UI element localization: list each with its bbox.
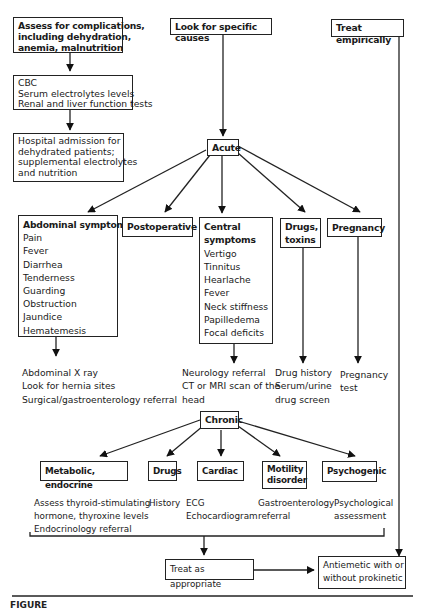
- drugs-toxins-box: Drugs, toxins: [280, 218, 321, 248]
- abdominal-item: Pain: [23, 231, 113, 244]
- drugs-chronic-box: Drugs: [148, 461, 177, 481]
- action-line: Surgical/gastroenterology referral: [22, 393, 177, 406]
- central-item: Neck stiffness: [204, 300, 268, 313]
- central-item: Hearlache: [204, 273, 268, 286]
- abdominal-item: Jaundice: [23, 310, 113, 323]
- metabolic-title: Metabolic, endocrine: [45, 466, 95, 490]
- motility-actions: Gastroenterology referral: [258, 497, 334, 523]
- central-item: Papilledema: [204, 313, 268, 326]
- hospital-admission-box: Hospital admission for dehydrated patien…: [13, 133, 124, 182]
- antiemetic-box: Antiemetic with or without prokinetic: [318, 556, 406, 589]
- drugs-chronic-title: Drugs: [153, 466, 181, 476]
- chronic-label: Chronic: [205, 414, 243, 425]
- action-line: Serum/urine: [275, 379, 332, 392]
- central-item: Vertigo: [204, 247, 268, 260]
- action-line: hormone, thyroxine levels: [34, 510, 150, 523]
- pregnancy-actions: Pregnancy test: [340, 368, 388, 395]
- action-line: drug screen: [275, 393, 332, 406]
- drugs-chronic-actions: History: [149, 497, 180, 510]
- central-title: symptoms: [204, 233, 268, 246]
- assess-line: Assess for complications,: [18, 20, 118, 31]
- action-line: Abdominal X ray: [22, 366, 177, 379]
- action-line: test: [340, 381, 388, 394]
- metabolic-endocrine-box: Metabolic, endocrine: [40, 461, 128, 481]
- antiemetic-line: without prokinetic: [323, 572, 401, 585]
- action-line: Neurology referral: [182, 366, 280, 379]
- abdominal-item: Obstruction: [23, 297, 113, 310]
- motility-title: Motility: [267, 464, 302, 475]
- assess-line: anemia, malnutrition: [18, 42, 118, 53]
- labs-line: Renal and liver function tests: [18, 99, 128, 110]
- cardiac-title: Cardiac: [202, 466, 238, 476]
- psychogenic-box: Psychogenic: [322, 461, 377, 482]
- psychogenic-title: Psychogenic: [327, 466, 386, 476]
- hospital-line: supplemental electrolytes: [18, 157, 119, 168]
- postoperative-box: Postoperative: [122, 217, 193, 237]
- action-line: Drug history: [275, 366, 332, 379]
- abdominal-item: Diarrhea: [23, 258, 113, 271]
- abdominal-actions: Abdominal X ray Look for hernia sites Su…: [22, 366, 177, 406]
- pregnancy-title: Pregnancy: [332, 222, 385, 233]
- acute-label: Acute: [212, 142, 241, 153]
- central-item: Fever: [204, 286, 268, 299]
- abdominal-item: Guarding: [23, 284, 113, 297]
- central-actions: Neurology referral CT or MRI scan of the…: [182, 366, 280, 406]
- motility-title: disorder: [267, 475, 302, 486]
- assess-complications-box: Assess for complications, including dehy…: [13, 17, 123, 53]
- drugs-toxins-title: toxins: [285, 234, 316, 247]
- postoperative-title: Postoperative: [127, 221, 197, 232]
- central-item: Tinnitus: [204, 260, 268, 273]
- chronic-box: Chronic: [200, 411, 239, 429]
- abdominal-item: Hematemesis: [23, 324, 113, 337]
- action-line: Endocrinology referral: [34, 523, 150, 536]
- abdominal-item: Fever: [23, 244, 113, 257]
- acute-box: Acute: [207, 139, 239, 156]
- abdominal-title: Abdominal symptoms: [23, 218, 113, 231]
- drugs-toxins-title: Drugs,: [285, 221, 316, 234]
- hospital-line: Hospital admission for: [18, 136, 119, 147]
- action-line: assessment: [334, 510, 393, 523]
- labs-box: CBC Serum electrolytes levels Renal and …: [13, 75, 133, 110]
- pregnancy-box: Pregnancy: [327, 218, 382, 237]
- action-line: ECG: [186, 497, 258, 510]
- action-line: referral: [258, 510, 334, 523]
- treat-empirically-box: Treat empirically: [331, 19, 404, 37]
- hospital-line: and nutrition: [18, 168, 119, 179]
- action-line: CT or MRI scan of the: [182, 379, 280, 392]
- abdominal-symptoms-box: Abdominal symptoms Pain Fever Diarrhea T…: [18, 215, 118, 337]
- labs-line: CBC: [18, 78, 128, 89]
- action-line: Pregnancy: [340, 368, 388, 381]
- action-line: History: [149, 497, 180, 510]
- central-item: Focal deficits: [204, 326, 268, 339]
- antiemetic-line: Antiemetic with or: [323, 559, 401, 572]
- drugs-actions: Drug history Serum/urine drug screen: [275, 366, 332, 406]
- action-line: Psychological: [334, 497, 393, 510]
- empiric-label: Treat empirically: [336, 22, 391, 45]
- look-for-causes-box: Look for specific causes: [170, 18, 272, 35]
- cardiac-actions: ECG Echocardiogram: [186, 497, 258, 523]
- action-line: Look for hernia sites: [22, 379, 177, 392]
- abdominal-item: Tenderness: [23, 271, 113, 284]
- treat-label: Treat as appropriate: [170, 564, 221, 589]
- psychogenic-actions: Psychological assessment: [334, 497, 393, 523]
- central-title: Central: [204, 220, 268, 233]
- cardiac-box: Cardiac: [197, 461, 244, 481]
- action-line: head: [182, 393, 280, 406]
- action-line: Gastroenterology: [258, 497, 334, 510]
- assess-line: including dehydration,: [18, 31, 118, 42]
- action-line: Echocardiogram: [186, 510, 258, 523]
- action-line: Assess thyroid-stimulating: [34, 497, 150, 510]
- metabolic-actions: Assess thyroid-stimulating hormone, thyr…: [34, 497, 150, 536]
- figure-caption: FIGURE: [10, 600, 47, 610]
- central-symptoms-box: Central symptoms Vertigo Tinnitus Hearla…: [199, 217, 273, 344]
- motility-disorder-box: Motility disorder: [262, 461, 307, 489]
- treat-as-appropriate-box: Treat as appropriate: [165, 559, 254, 580]
